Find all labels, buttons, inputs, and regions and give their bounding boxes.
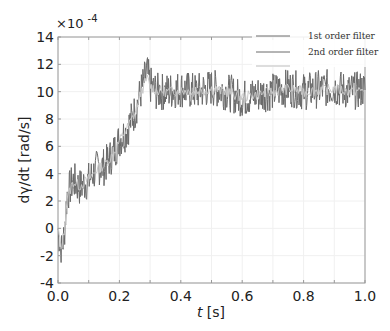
y-tick-labels: -4-202468101214 bbox=[36, 29, 54, 291]
legend-box bbox=[252, 22, 372, 67]
svg-text:0.6: 0.6 bbox=[231, 288, 253, 304]
svg-text:0.4: 0.4 bbox=[170, 288, 192, 304]
svg-text:1.0: 1.0 bbox=[354, 288, 376, 304]
svg-text:0: 0 bbox=[45, 220, 54, 236]
line-chart: -4-202468101214 0.00.20.40.60.81.0 ×10 -… bbox=[0, 0, 390, 331]
x-axis-label: t [s] bbox=[197, 304, 225, 320]
svg-text:10: 10 bbox=[36, 84, 54, 100]
svg-text:0.0: 0.0 bbox=[47, 288, 69, 304]
x-tick-labels: 0.00.20.40.60.81.0 bbox=[47, 288, 376, 304]
svg-text:-2: -2 bbox=[40, 248, 54, 264]
y-multiplier: ×10 -4 bbox=[56, 13, 98, 31]
svg-text:14: 14 bbox=[36, 29, 54, 45]
legend-label-1st-order: 1st order filter bbox=[308, 31, 376, 41]
legend-label-2nd-order: 2nd order filter bbox=[308, 47, 379, 57]
svg-text:4: 4 bbox=[45, 166, 54, 182]
svg-text:2: 2 bbox=[45, 193, 54, 209]
svg-text:12: 12 bbox=[36, 56, 54, 72]
svg-text:6: 6 bbox=[45, 138, 54, 154]
svg-text:0.8: 0.8 bbox=[292, 288, 314, 304]
y-axis-label: dγ/dt [rad/s] bbox=[16, 117, 32, 204]
legend: 1st order filter 2nd order filter bbox=[252, 22, 379, 67]
svg-text:0.2: 0.2 bbox=[108, 288, 130, 304]
svg-text:8: 8 bbox=[45, 111, 54, 127]
